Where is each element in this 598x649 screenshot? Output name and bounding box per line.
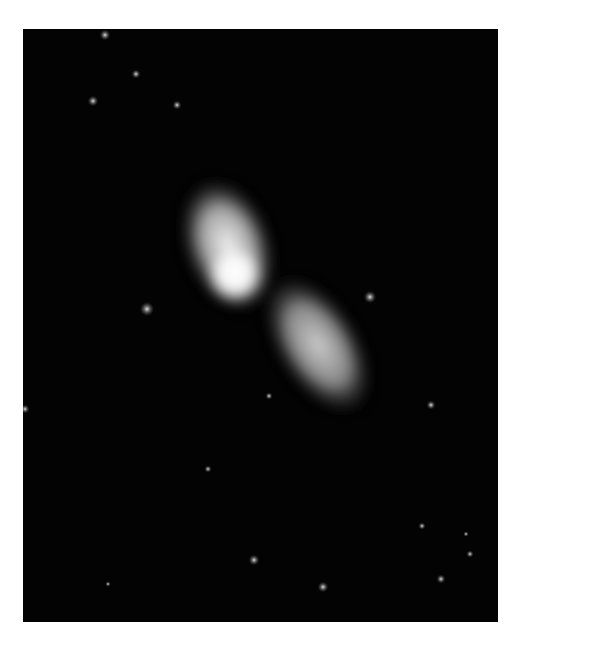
star	[23, 405, 30, 414]
star	[100, 30, 111, 41]
star	[140, 302, 154, 316]
bipolar-nebula	[162, 164, 395, 434]
star	[427, 401, 436, 410]
star	[88, 96, 99, 107]
nebula-core	[207, 247, 263, 303]
star-field	[23, 30, 498, 593]
star	[437, 575, 446, 584]
star	[364, 291, 377, 304]
nebula-image	[23, 29, 498, 622]
star	[173, 101, 182, 110]
star	[466, 550, 473, 557]
star	[265, 392, 272, 399]
star	[463, 531, 468, 536]
star	[318, 582, 329, 593]
star	[418, 522, 425, 529]
star	[105, 581, 110, 586]
star	[132, 70, 141, 79]
star	[249, 555, 260, 566]
astronomical-photo: Grayscale telescope photograph of a bipo…	[23, 29, 498, 622]
star	[204, 465, 211, 472]
